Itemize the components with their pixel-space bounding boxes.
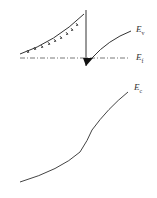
junction-triangle — [83, 58, 93, 66]
label-ev-sub: v — [142, 30, 145, 36]
hole-hatch-marks — [27, 23, 78, 53]
label-ec-sub: c — [140, 88, 143, 94]
valence-band-right-curve — [92, 31, 131, 58]
label-ev: Ev — [136, 25, 145, 36]
label-ef: Ef — [136, 53, 144, 64]
label-ef-sub: f — [142, 58, 144, 64]
band-diagram — [0, 0, 157, 198]
label-ec: Ec — [134, 83, 142, 94]
conduction-band-curve — [20, 92, 128, 182]
valence-band-left-curve — [20, 14, 84, 54]
